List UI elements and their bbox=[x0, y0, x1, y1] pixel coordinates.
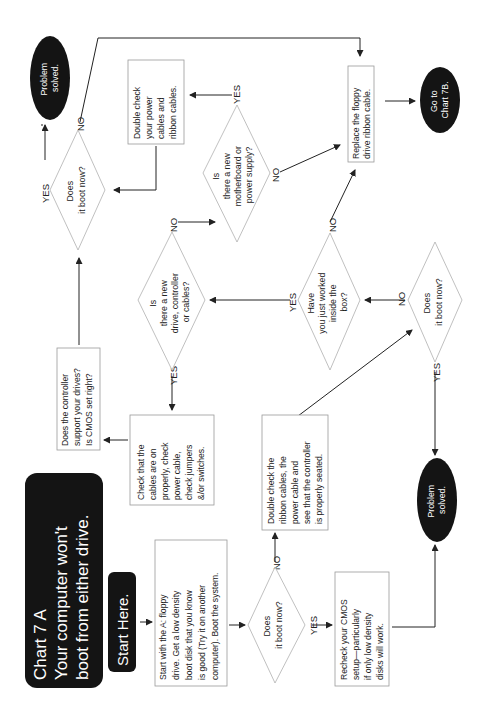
node-replace-floppy: Replace the floppy drive ribbon cable. bbox=[348, 66, 374, 162]
edge-label-yes: YES bbox=[287, 293, 298, 312]
edge-label-yes: YES bbox=[40, 184, 51, 203]
edge-label-yes: YES bbox=[168, 366, 179, 385]
node-double-check-ribbon: Double check the ribbon cables, the powe… bbox=[262, 415, 328, 530]
terminal-goto-7b: Go to Chart 7B. bbox=[420, 67, 460, 133]
edge-label-yes: YES bbox=[231, 85, 242, 104]
svg-text:Problem solved.: Problem solved. bbox=[39, 60, 60, 95]
svg-text:Replace the floppy drive: Replace the floppy drive ribbon cable. bbox=[351, 85, 372, 159]
edge-label-yes: YES bbox=[431, 363, 442, 382]
edge-label-no: NO bbox=[327, 218, 338, 232]
chart-subtitle-2: boot from either drive. bbox=[73, 515, 92, 680]
decision-q-new-motherboard: Is there a new motherboard or power supp… bbox=[203, 105, 270, 242]
decision-q-boot-3: Does it boot now? bbox=[50, 130, 105, 250]
edge-label-no: NO bbox=[396, 292, 407, 306]
edge-label-no: NO bbox=[270, 168, 281, 182]
node-controller-support: Does the controller support your drives?… bbox=[57, 348, 100, 450]
svg-text:Start Here.: Start Here. bbox=[114, 593, 131, 666]
flowchart-canvas: NO YES YES NO YES NO NO YES NO YES YES N… bbox=[0, 0, 485, 724]
node-double-check-power: Double check your power cables and ribbo… bbox=[128, 60, 184, 144]
decision-q-boot-2: Does it boot now? bbox=[408, 242, 462, 362]
node-start-box: Start with the A: floppy drive. Get a lo… bbox=[155, 540, 227, 686]
terminal-solved-bottom: Problem solved. bbox=[417, 458, 457, 542]
decision-q-worked-inside: Have you just worked inside the box? bbox=[298, 233, 360, 370]
svg-text:Problem solved.: Problem solved. bbox=[426, 482, 447, 517]
node-check-cables: Check that the cables are on properly, c… bbox=[130, 415, 214, 505]
edge-label-no: NO bbox=[168, 218, 179, 232]
terminal-solved-top: Problem solved. bbox=[30, 36, 70, 120]
chart-title: Chart 7 A bbox=[31, 608, 50, 680]
edge-label-no: NO bbox=[271, 556, 282, 570]
decision-q-boot-1: Does it boot now? bbox=[248, 567, 305, 683]
decision-q-new-drive: Is there a new drive, controller or cabl… bbox=[138, 232, 205, 370]
svg-text:Does the controller supp: Does the controller support your drives?… bbox=[60, 366, 94, 446]
start-here-badge: Start Here. bbox=[108, 572, 136, 672]
edge-label-yes: YES bbox=[308, 616, 319, 635]
chart-subtitle-1: Your computer won't bbox=[52, 526, 71, 680]
node-recheck-cmos: Recheck your CMOS setup—particularly if … bbox=[335, 572, 389, 686]
chart-title-block: Chart 7 A Your computer won't boot from … bbox=[25, 473, 103, 688]
edge-label-no: NO bbox=[75, 117, 86, 131]
